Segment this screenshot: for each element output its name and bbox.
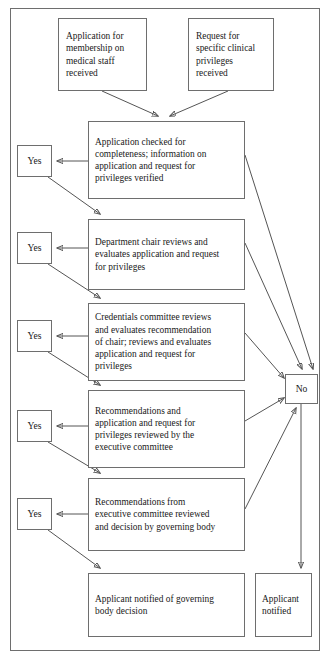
node-label: Yes — [18, 155, 51, 167]
node-label: Yes — [18, 330, 51, 342]
node-label: Yes — [18, 508, 51, 520]
node-decision-yes-2: Yes — [17, 232, 52, 264]
node-label: Department chair reviews and evaluates a… — [89, 236, 244, 273]
node-label: Applicant notified of governing body dec… — [89, 593, 244, 617]
node-label: Recommendations from executive committee… — [89, 496, 244, 533]
node-start-request: Request for specific clinical privileges… — [188, 18, 274, 91]
node-start-application: Application for membership on medical st… — [58, 18, 147, 91]
node-label: Credentials committee reviews and evalua… — [89, 311, 244, 372]
node-label: Recommendations and application and requ… — [89, 405, 244, 454]
node-step-executive-committee-review: Recommendations and application and requ… — [88, 390, 245, 468]
node-decision-yes-3: Yes — [17, 320, 52, 352]
node-step-department-chair-review: Department chair reviews and evaluates a… — [88, 219, 245, 290]
node-step-governing-body-decision: Recommendations from executive committee… — [88, 478, 245, 551]
node-label: Yes — [18, 420, 51, 432]
node-decision-yes-5: Yes — [17, 498, 52, 530]
node-label: Applicant notified — [256, 593, 311, 617]
node-step-completeness-check: Application checked for completeness; in… — [88, 121, 245, 199]
clipped-header-text — [0, 0, 330, 6]
node-decision-yes-4: Yes — [17, 410, 52, 442]
node-step-credentials-committee-review: Credentials committee reviews and evalua… — [88, 303, 245, 381]
credentialing-process-flowchart: Application for membership on medical st… — [0, 0, 330, 661]
node-decision-yes-1: Yes — [17, 145, 52, 177]
node-end-applicant-notified-decision: Applicant notified of governing body dec… — [88, 573, 245, 637]
node-label: Yes — [18, 242, 51, 254]
node-decision-no: No — [285, 374, 318, 404]
node-label: No — [286, 383, 317, 395]
node-label: Application checked for completeness; in… — [89, 136, 244, 185]
node-end-applicant-notified: Applicant notified — [255, 573, 312, 637]
node-label: Application for membership on medical st… — [59, 30, 146, 79]
node-label: Request for specific clinical privileges… — [189, 30, 273, 79]
